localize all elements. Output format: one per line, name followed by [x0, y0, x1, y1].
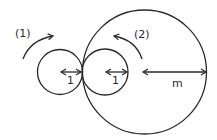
rotation-label-1: (1) — [15, 27, 31, 40]
circles-diagram: 1 1 m (1) (2) — [0, 0, 217, 140]
rotation-label-2: (2) — [134, 28, 150, 41]
radius-label-left: 1 — [67, 74, 74, 87]
radius-label-middle: 1 — [112, 74, 119, 87]
radius-label-large: m — [172, 77, 183, 90]
